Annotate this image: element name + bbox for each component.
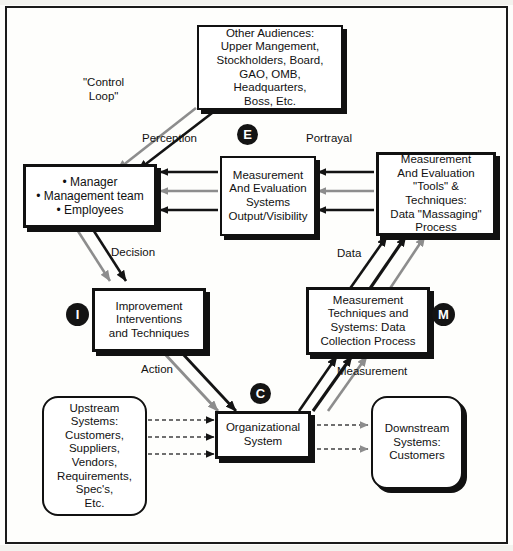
node-organizational-system: Organizational System	[215, 411, 311, 459]
node-measurement-techniques: Measurement Techniques and Systems: Data…	[306, 287, 430, 355]
diagram-page: Other Audiences: Upper Mangement, Stockh…	[0, 0, 513, 551]
node-manager-label: • Manager • Management team • Employees	[26, 175, 154, 217]
node-other-audiences-label: Other Audiences: Upper Mangement, Stockh…	[199, 27, 341, 108]
node-measurement-techniques-label: Measurement Techniques and Systems: Data…	[309, 294, 427, 348]
label-portrayal: Portrayal	[306, 132, 352, 144]
marker-c: C	[250, 383, 271, 404]
marker-e: E	[237, 124, 258, 145]
node-organizational-system-label: Organizational System	[218, 421, 308, 448]
node-downstream-systems: Downstream Systems: Customers	[371, 396, 463, 489]
node-manager: • Manager • Management team • Employees	[23, 164, 157, 228]
node-measurement-evaluation-systems: Measurement And Evaluation Systems Outpu…	[220, 156, 316, 236]
node-measurement-evaluation-tools: Measurement And Evaluation "Tools" & Tec…	[376, 152, 496, 236]
marker-m: M	[432, 303, 455, 326]
marker-i: I	[66, 303, 89, 326]
node-improvement-interventions-label: Improvement Interventions and Techniques	[95, 300, 203, 341]
node-upstream-systems-label: Upstream Systems: Customers, Suppliers, …	[44, 402, 145, 511]
node-measurement-evaluation-tools-label: Measurement And Evaluation "Tools" & Tec…	[379, 153, 493, 234]
scan-artifact-bottom	[0, 545, 513, 551]
label-data: Data	[337, 247, 361, 259]
node-downstream-systems-label: Downstream Systems: Customers	[373, 422, 461, 463]
node-other-audiences: Other Audiences: Upper Mangement, Stockh…	[197, 25, 343, 110]
node-measurement-evaluation-systems-label: Measurement And Evaluation Systems Outpu…	[222, 169, 314, 223]
label-action: Action	[141, 363, 173, 375]
label-measurement: Measurement	[337, 365, 407, 377]
node-improvement-interventions: Improvement Interventions and Techniques	[92, 288, 206, 352]
node-upstream-systems: Upstream Systems: Customers, Suppliers, …	[42, 396, 147, 516]
label-perception: Perception	[142, 132, 197, 144]
label-control-loop: "Control Loop"	[83, 76, 124, 104]
scan-artifact-top	[0, 0, 513, 5]
label-decision: Decision	[111, 246, 155, 258]
